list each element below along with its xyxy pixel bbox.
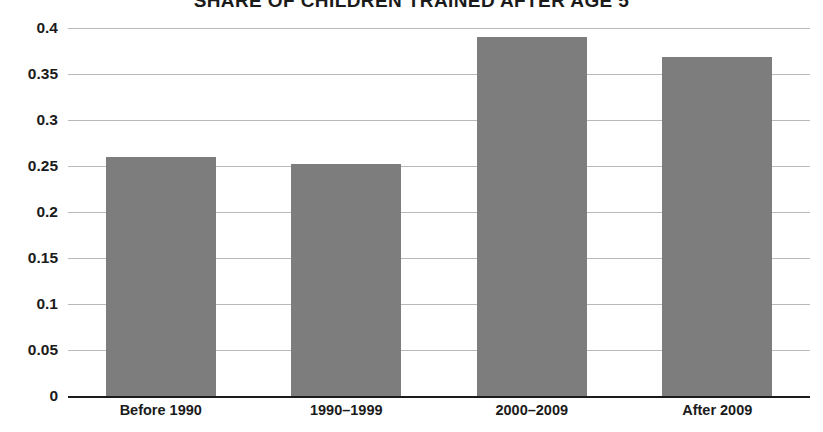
gridline	[68, 396, 810, 398]
bar	[106, 157, 216, 396]
y-axis-tick-label: 0.35	[0, 65, 58, 83]
y-axis-tick-label: 0.05	[0, 341, 58, 359]
y-axis-tick-label: 0.4	[0, 19, 58, 37]
y-axis-tick-label: 0.15	[0, 249, 58, 267]
y-axis-tick-label: 0	[0, 387, 58, 405]
bar-chart: SHARE OF CHILDREN TRAINED AFTER AGE 5 00…	[0, 0, 823, 432]
y-axis-tick-label: 0.2	[0, 203, 58, 221]
plot-area	[68, 28, 810, 396]
x-axis-tick-label: 2000–2009	[495, 402, 568, 418]
bars-layer	[68, 28, 810, 396]
x-axis-tick-label: 1990–1999	[310, 402, 383, 418]
bar	[662, 57, 772, 396]
y-axis-tick-label: 0.1	[0, 295, 58, 313]
bar	[477, 37, 587, 396]
chart-title: SHARE OF CHILDREN TRAINED AFTER AGE 5	[0, 0, 823, 12]
y-axis-tick-label: 0.25	[0, 157, 58, 175]
x-axis-tick-label: After 2009	[682, 402, 752, 418]
x-axis-tick-label: Before 1990	[120, 402, 202, 418]
y-axis-tick-label: 0.3	[0, 111, 58, 129]
bar	[291, 164, 401, 396]
x-axis-labels: Before 19901990–19992000–2009After 2009	[68, 402, 810, 432]
